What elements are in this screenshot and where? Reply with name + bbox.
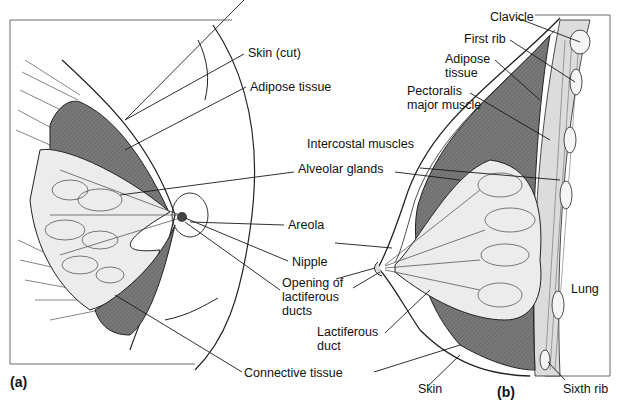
label-pectoralis-major: Pectoralis major muscle (407, 84, 481, 112)
label-first-rib: First rib (464, 32, 506, 46)
panel-a-drawing (10, 20, 254, 370)
label-opening-line3: ducts (282, 304, 343, 318)
label-lactiferous-line2: duct (317, 339, 378, 353)
label-skin: Skin (418, 382, 442, 396)
label-areola: Areola (288, 218, 324, 232)
label-sixth-rib: Sixth rib (563, 382, 608, 396)
label-adipose-b-line1: Adipose (445, 52, 490, 66)
label-pectoralis-line2: major muscle (407, 98, 481, 112)
label-opening-line1: Opening of (282, 276, 343, 290)
anatomy-diagram: Skin (cut) Adipose tissue Alveolar gland… (0, 0, 624, 411)
illustration (0, 0, 624, 411)
label-opening-line2: lactiferous (282, 290, 343, 304)
panel-label-b: (b) (497, 384, 515, 400)
label-adipose-tissue: Adipose tissue (250, 80, 331, 94)
label-clavicle: Clavicle (490, 10, 534, 24)
label-lung: Lung (571, 282, 599, 296)
label-connective-tissue: Connective tissue (244, 366, 343, 380)
label-lactiferous-duct: Lactiferous duct (317, 325, 378, 353)
label-nipple: Nipple (292, 255, 327, 269)
label-adipose-tissue-b: Adipose tissue (445, 52, 490, 80)
label-alveolar-glands: Alveolar glands (298, 162, 383, 176)
label-adipose-b-line2: tissue (445, 66, 490, 80)
panel-label-a: (a) (10, 374, 27, 390)
label-intercostal-muscles: Intercostal muscles (307, 137, 414, 151)
label-lactiferous-line1: Lactiferous (317, 325, 378, 339)
label-opening-lactiferous-ducts: Opening of lactiferous ducts (282, 276, 343, 318)
label-skin-cut: Skin (cut) (248, 46, 301, 60)
label-pectoralis-line1: Pectoralis (407, 84, 481, 98)
panel-b-drawing (375, 15, 610, 376)
